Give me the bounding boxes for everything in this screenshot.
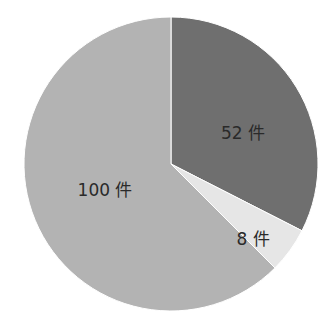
slice-label-100: 100 件 <box>78 176 133 201</box>
slice-label-8: 8 件 <box>236 225 269 250</box>
pie-chart <box>0 0 326 329</box>
slice-label-52: 52 件 <box>221 119 265 144</box>
